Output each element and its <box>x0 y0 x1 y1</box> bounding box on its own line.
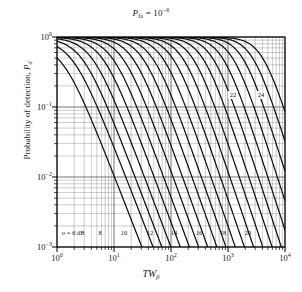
y-tick-label-0: 100 <box>20 31 52 42</box>
curve-label-20: 20 <box>245 229 252 236</box>
curve-label-12: 12 <box>147 229 154 236</box>
title-exponent: −6 <box>163 7 170 13</box>
detection-probability-figure: Pfa = 10−6 Probability of detection, Pd … <box>0 0 302 292</box>
curve-label-10: 10 <box>121 229 128 236</box>
x-tick-label-0: 100 <box>41 252 73 263</box>
curve-label-14: 14 <box>171 229 178 236</box>
curve-label-18: 18 <box>220 229 227 236</box>
y-axis-label-symbol: P <box>22 65 32 71</box>
y-tick-label-1: 10−1 <box>20 101 52 112</box>
figure-title: Pfa = 10−6 <box>0 7 302 19</box>
curve-label-16: 16 <box>196 229 203 236</box>
x-tick-label-1: 101 <box>98 252 130 263</box>
y-axis-label-symbol-sub: d <box>27 62 33 65</box>
x-tick-label-2: 102 <box>155 252 187 263</box>
curve-label-22: 22 <box>230 91 237 98</box>
x-tick-label-4: 104 <box>269 252 301 263</box>
curve-label-24: 24 <box>258 91 265 98</box>
y-tick-label-3: 10−3 <box>20 241 52 252</box>
x-axis-label: TWβ <box>0 268 302 280</box>
y-axis-label-text: Probability of detection, <box>22 70 32 159</box>
title-equals: = 10 <box>143 8 163 18</box>
curve-label-8: 8 <box>98 229 101 236</box>
x-axis-label-main: TW <box>142 268 156 279</box>
curve-label-6db: υ = 6 dB <box>62 229 85 236</box>
x-axis-label-sub: β <box>156 273 159 280</box>
x-tick-label-3: 103 <box>212 252 244 263</box>
y-tick-label-2: 10−2 <box>20 171 52 182</box>
